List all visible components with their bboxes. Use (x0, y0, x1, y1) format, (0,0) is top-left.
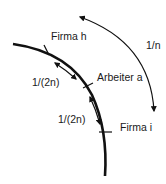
label-half-distance-2: 1/(2n) (58, 114, 85, 125)
label-firma-h: Firma h (51, 31, 87, 42)
label-full-distance: 1/n (146, 40, 161, 51)
arrow-full-distance (80, 17, 154, 111)
salop-circle-diagram: Firma h Arbeiter a Firma i 1/(2n) 1/(2n)… (0, 0, 166, 184)
label-arbeiter-a: Arbeiter a (97, 72, 143, 83)
circle-arc (13, 44, 105, 176)
diagram-graphics (0, 0, 166, 184)
label-firma-i: Firma i (120, 122, 152, 133)
label-half-distance-1: 1/(2n) (32, 77, 59, 88)
